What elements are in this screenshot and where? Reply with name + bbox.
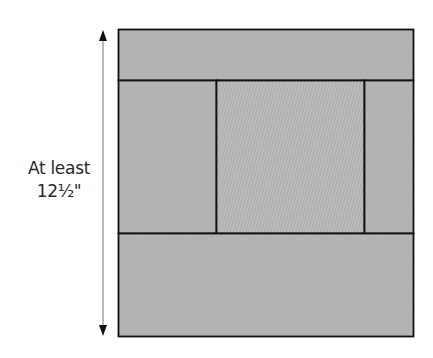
dimension-label-line1: At least	[14, 157, 104, 180]
dimension-label-line2: 12½"	[14, 180, 104, 203]
center-square	[217, 81, 365, 234]
dimension-label: At least 12½"	[14, 157, 104, 203]
left-strip	[119, 81, 217, 234]
right-strip	[365, 81, 414, 234]
bottom-strip	[119, 234, 414, 337]
arrow-head-up-icon	[99, 30, 107, 41]
arrow-head-down-icon	[99, 325, 107, 336]
top-strip	[119, 30, 414, 81]
